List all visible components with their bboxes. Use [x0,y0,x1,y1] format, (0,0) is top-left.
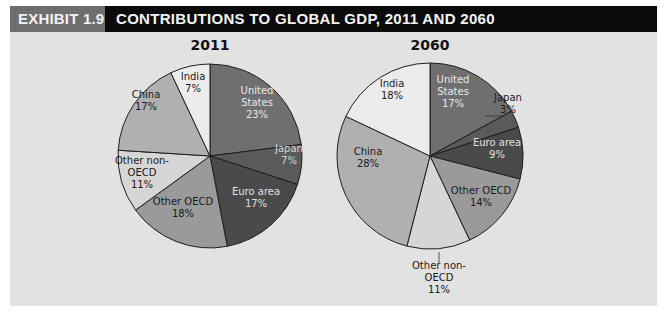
slice-label-india: India18% [380,78,405,101]
slice-label-china: China17% [132,89,161,112]
slice-label-other-non-oecd: Other non-OECD11% [412,260,466,295]
pie-charts: UnitedStates23%Japan7%Euro area17%Other … [0,0,665,313]
slice-label-china: China28% [354,146,383,169]
